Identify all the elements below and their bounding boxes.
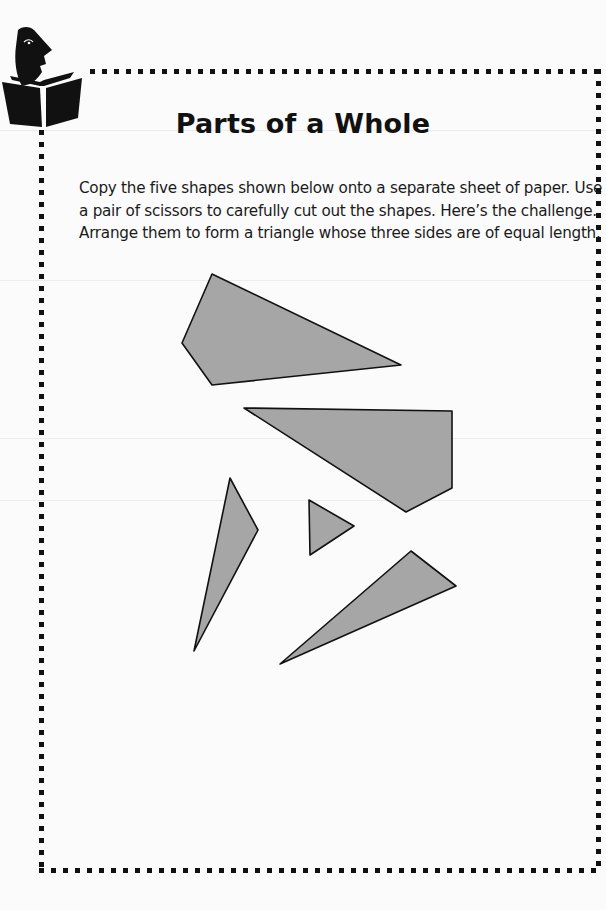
long-triangle-shape	[280, 551, 456, 664]
pentagon-shape	[182, 274, 401, 385]
small-triangle-shape	[309, 500, 354, 555]
hexagon-shape	[244, 408, 452, 512]
shapes-canvas	[0, 0, 606, 910]
worksheet-page: Parts of a Whole Copy the five shapes sh…	[0, 0, 606, 910]
thin-wedge-shape	[194, 478, 258, 651]
